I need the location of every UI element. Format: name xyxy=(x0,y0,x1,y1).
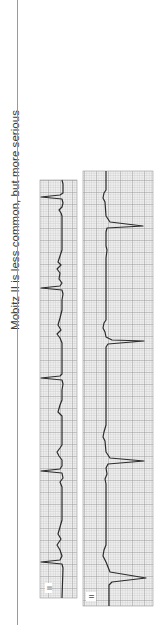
ecg-strips: II II xyxy=(0,0,163,625)
ecg-strip-2: II xyxy=(83,171,153,606)
ecg-strip-1: II xyxy=(40,180,77,598)
strip-2-lead-label: II xyxy=(88,595,95,599)
strip-1-lead-label: II xyxy=(46,586,53,590)
